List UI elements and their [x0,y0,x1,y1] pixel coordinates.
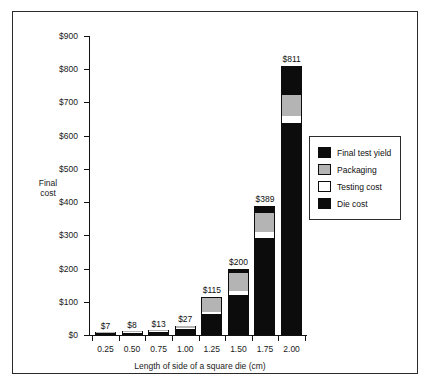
y-tick-900 [84,36,90,37]
bar-segment-testing-cost [281,116,302,123]
y-tick-label: $500 [59,165,78,173]
y-tick-400 [84,202,90,203]
y-tick-300 [84,235,90,236]
y-tick-label: $800 [59,65,78,73]
bar-segment-die-cost [201,314,222,335]
x-tick [252,335,253,341]
bar-1-25[interactable]: $115 [201,297,222,335]
figure-frame: $0$100$200$300$400$500$600$700$800$900 0… [12,11,418,374]
y-tick-700 [84,102,90,103]
bar-segment-packaging [254,213,275,232]
x-tick-label: 1.50 [223,345,253,354]
legend-swatch-icon [318,164,331,175]
bar-segment-packaging [281,95,302,116]
legend-swatch-icon [318,198,331,209]
bar-0-75[interactable]: $13 [148,330,169,335]
x-tick [278,335,279,341]
y-tick-800 [84,69,90,70]
x-tick [119,335,120,341]
x-tick-label: 1.00 [170,345,200,354]
bar-value-label: $200 [229,258,248,267]
y-tick-label: $400 [59,198,78,206]
y-axis-title-line: cost [25,188,71,198]
legend-item-label: Die cost [337,199,368,209]
bar-segment-die-cost [122,333,143,335]
bar-segment-packaging [228,273,249,291]
bar-value-label: $7 [101,322,110,331]
y-tick-label: $700 [59,98,78,106]
y-tick-label: $200 [59,265,78,273]
x-tick [145,335,146,341]
y-axis-title-line: Final [25,178,71,188]
x-tick-label: 1.25 [197,345,227,354]
legend-swatch-icon [318,147,331,158]
x-tick-label: 0.50 [117,345,147,354]
bar-segment-die-cost [228,295,249,335]
y-tick-label: $100 [59,298,78,306]
bar-value-label: $8 [127,321,136,330]
x-axis-line [89,335,307,336]
y-tick-600 [84,136,90,137]
legend-swatch-icon [318,181,331,192]
y-axis-title: Finalcost [25,178,71,198]
legend-item-final-test-yield[interactable]: Final test yield [318,144,393,161]
legend-item-die-cost[interactable]: Die cost [318,195,393,212]
bar-value-label: $27 [178,315,192,324]
cropped-caption-strip [6,0,426,9]
bar-segment-die-cost [281,123,302,335]
x-tick-label: 1.75 [250,345,280,354]
y-tick-100 [84,302,90,303]
y-axis-line [89,36,90,336]
bar-value-label: $115 [203,286,221,295]
legend-item-label: Final test yield [337,148,391,158]
y-tick-label: $0 [69,331,78,339]
x-tick-label: 0.75 [144,345,174,354]
bar-value-label: $13 [152,320,166,329]
x-tick [92,335,93,341]
legend-item-label: Testing cost [337,182,382,192]
x-tick [199,335,200,341]
legend-item-testing-cost[interactable]: Testing cost [318,178,393,195]
bar-1-50[interactable]: $200 [228,269,249,335]
bar-segment-die-cost [254,238,275,335]
bar-segment-final-test-yield [254,206,275,213]
legend-item-label: Packaging [337,165,377,175]
x-tick [305,335,306,341]
x-axis-title: Length of side of a square die (cm) [89,361,311,371]
bar-0-50[interactable]: $8 [122,331,143,335]
bar-1-75[interactable]: $389 [254,206,275,335]
y-tick-label: $300 [59,231,78,239]
y-tick-200 [84,269,90,270]
y-tick-label: $900 [59,32,78,40]
bar-segment-packaging [201,298,222,312]
legend-item-packaging[interactable]: Packaging [318,161,393,178]
bar-value-label: $389 [256,195,275,204]
bar-segment-final-test-yield [281,66,302,95]
y-tick-label: $600 [59,132,78,140]
bar-segment-die-cost [175,329,196,335]
bar-segment-die-cost [148,332,169,335]
bar-value-label: $811 [282,55,300,64]
x-tick-label: 0.25 [90,345,120,354]
y-tick-500 [84,169,90,170]
x-tick [225,335,226,341]
bar-0-25[interactable]: $7 [95,332,116,335]
chart-legend: Final test yieldPackagingTesting costDie… [309,136,401,220]
stacked-bar-chart: $0$100$200$300$400$500$600$700$800$900 0… [13,12,419,375]
x-tick [172,335,173,341]
x-tick-label: 2.00 [277,345,307,354]
bar-2-00[interactable]: $811 [281,66,302,335]
bar-segment-die-cost [95,333,116,335]
y-tick-0 [84,335,90,336]
bar-1-00[interactable]: $27 [175,326,196,335]
